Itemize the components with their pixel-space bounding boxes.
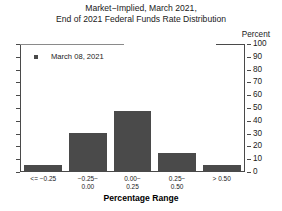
- chart-figure: Market−Implied, March 2021, End of 2021 …: [0, 0, 282, 211]
- chart-title-line-2: End of 2021 Federal Funds Rate Distribut…: [0, 14, 282, 25]
- x-tick-label-line-2: 0.25: [111, 183, 153, 191]
- x-tick-label-line-1: 0.00−: [111, 175, 153, 183]
- bar: [114, 111, 152, 171]
- x-tick-label: > 0.50: [200, 175, 242, 190]
- legend-item-label: March 08, 2021: [51, 52, 104, 61]
- x-tick-label: 0.25−0.50: [156, 175, 198, 190]
- y-tick-mark-left: [16, 95, 20, 96]
- x-tick-label-line-2: 0.50: [156, 183, 198, 191]
- bar: [69, 133, 107, 171]
- y-tick-mark-left: [16, 134, 20, 135]
- x-axis-title: Percentage Range: [0, 193, 282, 203]
- y-tick-mark-left: [16, 146, 20, 147]
- y-axis-unit-label: Percent: [242, 30, 270, 39]
- y-tick-label: 80: [253, 65, 262, 73]
- y-tick-mark-left: [16, 172, 20, 173]
- chart-title-line-1: Market−Implied, March 2021,: [0, 3, 282, 14]
- legend-rule: [20, 44, 124, 45]
- y-tick-mark-left: [16, 121, 20, 122]
- y-tick-label: 30: [253, 129, 262, 137]
- y-tick-label: 20: [253, 142, 262, 150]
- x-tick-label-line-1: > 0.50: [200, 175, 242, 183]
- y-tick-label: 0: [253, 168, 258, 176]
- chart-title: Market−Implied, March 2021, End of 2021 …: [0, 3, 282, 25]
- legend-swatch-icon: [34, 55, 38, 59]
- y-tick-mark: [247, 121, 251, 122]
- y-tick-label: 50: [253, 104, 262, 112]
- y-tick-mark: [247, 70, 251, 71]
- bar: [158, 153, 196, 171]
- x-tick-label-line-1: −0.25−: [67, 175, 109, 183]
- chart-legend: March 08, 2021: [20, 44, 124, 66]
- y-tick-mark: [247, 108, 251, 109]
- y-tick-label: 10: [253, 155, 262, 163]
- y-tick-mark-left: [16, 70, 20, 71]
- x-tick-label: <= −0.25: [22, 175, 64, 190]
- y-tick-mark: [247, 57, 251, 58]
- y-tick-mark: [247, 44, 251, 45]
- y-tick-mark-left: [16, 108, 20, 109]
- y-tick-label: 60: [253, 91, 262, 99]
- x-tick-label: 0.00−0.25: [111, 175, 153, 190]
- bar-column: [203, 45, 241, 171]
- x-tick-label-line-1: 0.25−: [156, 175, 198, 183]
- y-tick-mark: [247, 95, 251, 96]
- x-tick-label-line-2: 0.00: [67, 183, 109, 191]
- x-tick-label-line-1: <= −0.25: [22, 175, 64, 183]
- bar: [203, 165, 241, 171]
- y-tick-label: 90: [253, 53, 262, 61]
- y-tick-mark: [247, 159, 251, 160]
- bar: [24, 165, 62, 171]
- x-tick-label: −0.25−0.00: [67, 175, 109, 190]
- y-tick-mark: [247, 134, 251, 135]
- y-tick-mark: [247, 146, 251, 147]
- bar-column: [158, 45, 196, 171]
- x-axis-tick-labels: <= −0.25−0.25−0.000.00−0.250.25−0.50> 0.…: [21, 175, 244, 190]
- y-tick-mark-left: [16, 159, 20, 160]
- y-axis-ticks: 1009080706050403020100: [247, 44, 280, 172]
- y-tick-mark-left: [16, 82, 20, 83]
- y-tick-label: 40: [253, 117, 262, 125]
- y-tick-mark: [247, 172, 251, 173]
- legend-item: March 08, 2021: [20, 52, 104, 61]
- y-tick-label: 100: [253, 40, 267, 48]
- y-tick-label: 70: [253, 78, 262, 86]
- y-tick-mark: [247, 82, 251, 83]
